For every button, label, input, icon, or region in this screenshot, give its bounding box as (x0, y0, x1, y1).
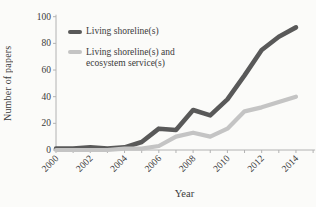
y-tick-label: 40 (42, 92, 52, 102)
x-tick-label: 2014 (280, 153, 301, 174)
x-tick-label: 2012 (246, 153, 267, 174)
y-tick-label: 80 (42, 38, 52, 48)
x-tick-label: 2006 (143, 153, 164, 174)
y-tick-label: 20 (42, 118, 52, 128)
y-tick-label: 60 (42, 65, 52, 75)
x-tick-label: 2008 (177, 153, 198, 174)
legend-swatch-light-line (68, 50, 82, 54)
legend-label: Living shoreline(s) (86, 26, 159, 38)
legend-entry-ecosystem-services: Living shoreline(s) andecosystem service… (68, 47, 175, 70)
legend-entry-living-shorelines: Living shoreline(s) (68, 26, 175, 38)
legend-swatch-dark-line (68, 30, 82, 34)
series-line-ecosystem-services (56, 97, 296, 150)
legend-label-line2: ecosystem service(s) (86, 58, 165, 68)
chart-figure: 0204060801002000200220042006200820102012… (0, 0, 316, 207)
legend: Living shoreline(s) Living shoreline(s) … (68, 26, 175, 70)
x-axis-title: Year (56, 188, 313, 199)
legend-label-line1: Living shoreline(s) and (86, 47, 175, 57)
y-tick-label: 100 (37, 12, 52, 22)
y-axis-title: Number of papers (2, 16, 13, 150)
y-tick-label: 0 (46, 145, 51, 155)
x-tick-label: 2004 (108, 153, 129, 174)
x-tick-label: 2000 (40, 153, 61, 174)
x-tick-label: 2002 (74, 153, 95, 174)
legend-label: Living shoreline(s) andecosystem service… (86, 47, 175, 70)
x-tick-label: 2010 (211, 153, 232, 174)
